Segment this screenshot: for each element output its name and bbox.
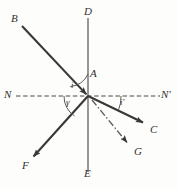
label-point-e: E	[84, 168, 91, 179]
label-point-a: A	[90, 68, 97, 79]
label-point-b: B	[11, 13, 18, 24]
label-point-f: F	[22, 160, 29, 171]
refracted-ray-oc	[88, 96, 143, 123]
label-angle-i-prime: i'	[120, 98, 124, 107]
label-point-n-prime: N'	[161, 89, 171, 100]
incident-ray-bo	[22, 26, 86, 94]
label-angle-gamma: γ	[66, 98, 70, 107]
label-point-d: D	[84, 6, 92, 17]
label-point-g: G	[134, 146, 142, 157]
ray-diagram-figure: D E A B C F G N N' i γ i'	[0, 0, 178, 188]
label-point-c: C	[150, 124, 157, 135]
reflected-ray-of	[34, 96, 89, 157]
label-point-n: N	[4, 89, 11, 100]
label-angle-i: i	[71, 81, 74, 90]
